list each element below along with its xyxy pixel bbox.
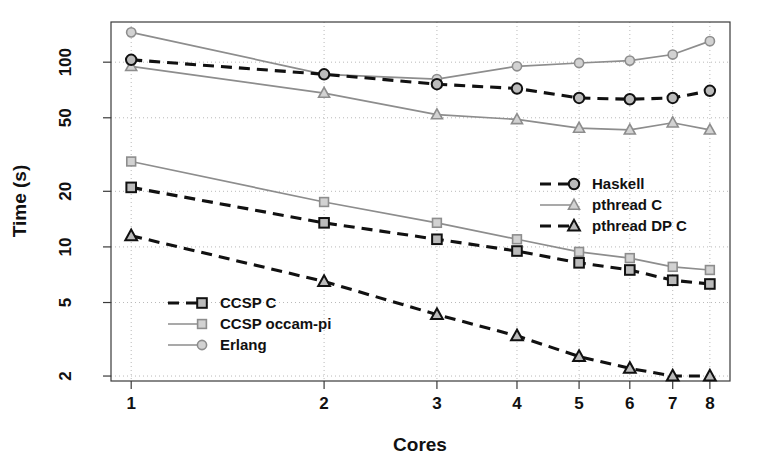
data-point-marker-circle <box>569 179 579 189</box>
x-tick-labels: 12345678 <box>126 394 714 413</box>
data-point-marker-triangle <box>125 229 137 240</box>
legend-left: CCSP CCCSP occam-piErlang <box>168 294 331 353</box>
data-point-marker-circle <box>512 62 521 71</box>
series-line <box>131 32 710 79</box>
legend-item-erlang[interactable]: Erlang <box>168 336 267 353</box>
data-point-marker-circle <box>432 79 442 89</box>
y-tick-labels: 10050201052 <box>57 48 76 381</box>
series-pthread-dp-c <box>125 229 715 380</box>
legend-label: Haskell <box>592 175 645 192</box>
data-point-marker-triangle <box>667 117 678 127</box>
data-point-marker-circle <box>705 37 714 46</box>
data-point-marker-square <box>432 234 442 244</box>
x-tick-label: 8 <box>705 394 714 413</box>
x-tick-label: 3 <box>432 394 441 413</box>
data-point-marker-square <box>668 275 678 285</box>
x-tick-label: 1 <box>126 394 135 413</box>
x-tick-label: 4 <box>512 394 522 413</box>
legend-label: Erlang <box>220 336 267 353</box>
data-point-marker-circle <box>705 86 715 96</box>
legend-label: pthread DP C <box>592 217 687 234</box>
data-point-marker-square <box>127 157 136 166</box>
data-point-marker-square <box>197 298 207 308</box>
data-point-marker-square <box>198 320 207 329</box>
x-tick-label: 2 <box>319 394 328 413</box>
legend-label: CCSP C <box>220 294 277 311</box>
data-point-marker-circle <box>625 94 635 104</box>
legend-item-pthread-dp-c[interactable]: pthread DP C <box>540 217 687 234</box>
data-point-marker-square <box>512 246 522 256</box>
x-axis-title: Cores <box>393 434 447 455</box>
data-point-marker-circle <box>126 55 136 65</box>
legend-item-pthread-c[interactable]: pthread C <box>540 196 662 213</box>
series-erlang <box>127 28 715 84</box>
data-point-marker-circle <box>574 58 583 67</box>
data-point-marker-circle <box>127 28 136 37</box>
data-point-marker-square <box>513 235 522 244</box>
legend-item-haskell[interactable]: Haskell <box>540 175 645 192</box>
data-point-marker-square <box>625 254 634 263</box>
y-axis-title: Time (s) <box>9 165 30 238</box>
chart-container: 12345678 10050201052 CCSP CCCSP occam-pi… <box>0 0 771 476</box>
x-tick-label: 5 <box>574 394 583 413</box>
y-tick-label: 2 <box>57 371 76 380</box>
legend-right: Haskellpthread Cpthread DP C <box>540 175 687 234</box>
data-point-marker-square <box>319 218 329 228</box>
y-tick-label: 50 <box>57 108 76 127</box>
data-point-marker-circle <box>668 50 677 59</box>
x-tick-label: 6 <box>625 394 634 413</box>
line-chart: 12345678 10050201052 CCSP CCCSP occam-pi… <box>0 0 771 476</box>
series-line <box>131 60 710 99</box>
y-tick-label: 20 <box>57 182 76 201</box>
data-point-marker-circle <box>197 340 206 349</box>
data-point-marker-circle <box>668 93 678 103</box>
y-tick-label: 100 <box>57 48 76 76</box>
data-point-marker-square <box>575 247 584 256</box>
legend-label: pthread C <box>592 196 662 213</box>
data-point-marker-square <box>126 183 136 193</box>
data-point-marker-square <box>320 198 329 207</box>
legend-item-ccsp-c[interactable]: CCSP C <box>168 294 277 311</box>
data-point-marker-circle <box>625 56 634 65</box>
data-point-marker-triangle <box>511 330 523 341</box>
y-tick-label: 5 <box>57 298 76 307</box>
data-point-marker-circle <box>574 93 584 103</box>
data-point-marker-triangle <box>568 220 580 231</box>
data-point-marker-square <box>705 266 714 275</box>
legend-label: CCSP occam-pi <box>220 315 331 332</box>
data-point-marker-circle <box>319 69 329 79</box>
data-point-marker-circle <box>512 83 522 93</box>
data-point-marker-square <box>574 258 584 268</box>
data-point-marker-square <box>625 265 635 275</box>
data-point-marker-triangle <box>318 275 330 286</box>
data-point-marker-triangle <box>704 370 716 381</box>
data-point-marker-square <box>433 218 442 227</box>
data-point-marker-square <box>705 279 715 289</box>
data-point-marker-square <box>668 262 677 271</box>
x-tick-label: 7 <box>668 394 677 413</box>
y-tick-label: 10 <box>57 237 76 256</box>
legend-item-ccsp-occam-pi[interactable]: CCSP occam-pi <box>168 315 331 332</box>
